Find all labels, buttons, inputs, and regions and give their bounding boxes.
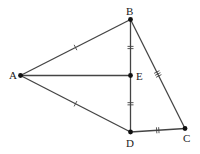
- label-C: C: [183, 132, 190, 144]
- point-labels: ABEDC: [9, 5, 190, 149]
- point-C: [183, 126, 188, 131]
- label-B: B: [126, 5, 133, 17]
- segment-DC: [131, 129, 186, 133]
- point-A: [18, 73, 23, 78]
- point-D: [128, 130, 133, 135]
- point-B: [128, 17, 133, 22]
- geometry-diagram: ABEDC: [0, 0, 200, 154]
- tick-marks: [74, 45, 161, 133]
- label-D: D: [126, 137, 134, 149]
- label-E: E: [136, 70, 143, 82]
- point-E: [128, 73, 133, 78]
- label-A: A: [9, 69, 17, 81]
- segments: [21, 20, 186, 133]
